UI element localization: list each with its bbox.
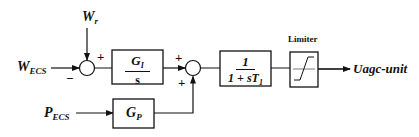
- lag-fraction: 1 1 + sT1: [220, 55, 271, 87]
- summing-junction-2: [186, 61, 201, 76]
- proportional-gain-label: GP: [126, 106, 142, 122]
- output-label: Uagc-unit: [353, 62, 407, 75]
- limiter-label: Limiter: [288, 35, 318, 44]
- lag-den-main: 1 + sT: [228, 71, 259, 85]
- lag-denominator: 1 + sT1: [228, 70, 263, 87]
- lag-den-sub: 1: [259, 78, 263, 87]
- integral-denominator: s: [135, 72, 140, 86]
- junction1-plus-sign: +: [97, 50, 104, 63]
- junction1-minus-sign: −: [66, 72, 73, 85]
- gi-main: G: [131, 53, 140, 68]
- integral-gain-fraction: GI s: [112, 54, 163, 86]
- gp-sub: P: [136, 112, 142, 122]
- junction2-plus-bottom-sign: +: [178, 76, 185, 89]
- w-ecs-main: W: [17, 59, 29, 74]
- p-ecs-label: PECS: [44, 106, 70, 122]
- integral-numerator: GI: [125, 54, 150, 72]
- w-r-label: Wr: [82, 10, 98, 26]
- gp-main: G: [126, 105, 136, 120]
- w-ecs-label: WECS: [17, 60, 46, 76]
- summing-junction-1: [80, 61, 95, 76]
- gi-sub: I: [141, 61, 144, 70]
- p-ecs-sub: ECS: [53, 112, 70, 122]
- p-ecs-main: P: [44, 105, 53, 120]
- junction2-plus-left-sign: +: [175, 51, 182, 64]
- w-r-sub: r: [94, 16, 98, 26]
- w-r-main: W: [82, 9, 94, 24]
- lag-numerator: 1: [236, 55, 255, 70]
- w-ecs-sub: ECS: [29, 66, 46, 76]
